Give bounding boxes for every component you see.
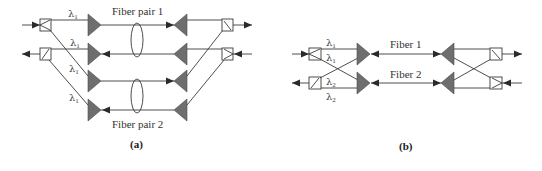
wavelength-label: λ1: [70, 37, 80, 50]
arrow-right-icon: [514, 51, 522, 58]
wavelength-label: λ2: [326, 76, 336, 89]
wavelength-label: λ1: [68, 8, 78, 21]
figure-b: Fiber 1 Fiber 2 λ1 λ1 λ2 λ2 (b): [292, 37, 522, 153]
amplifier-icon: [174, 70, 187, 92]
fiber-1-label: Fiber 1: [390, 38, 421, 50]
fiber-pair-ellipse: [131, 23, 143, 57]
amplifier-icon: [357, 72, 370, 94]
amplifier-icon: [88, 99, 101, 121]
amplifier-icon: [441, 43, 454, 65]
amplifier-icon: [357, 43, 370, 65]
arrow-right-icon: [301, 51, 309, 58]
caption-a: (a): [130, 138, 143, 151]
arrow-right-icon: [244, 22, 252, 29]
arrow-right-icon: [32, 22, 40, 29]
fiber-pair-2-label: Fiber pair 2: [112, 118, 163, 130]
amplifier-icon: [174, 14, 187, 36]
fiber-pair-ellipse: [131, 79, 143, 113]
arrow-left-icon: [292, 80, 300, 87]
arrow-left-icon: [503, 80, 511, 87]
fiber-2-label: Fiber 2: [390, 68, 421, 80]
amplifier-icon: [88, 14, 101, 36]
amplifier-icon: [174, 43, 187, 65]
splitter-box: [490, 77, 502, 89]
amplifier-icon: [441, 72, 454, 94]
arrow-left-icon: [22, 51, 30, 58]
caption-b: (b): [399, 140, 413, 153]
wavelength-label: λ1: [326, 37, 336, 50]
wavelength-label: λ1: [69, 92, 79, 105]
wavelength-label: λ2: [326, 91, 336, 104]
figure-a: Fiber pair 1 Fiber pair 2 λ1 λ1 λ1 λ1 (a…: [22, 5, 252, 151]
arrow-left-icon: [234, 51, 242, 58]
amplifier-icon: [88, 43, 101, 65]
fiber-pair-1-label: Fiber pair 1: [112, 5, 163, 17]
wavelength-label: λ1: [69, 63, 79, 76]
figure-canvas: Fiber pair 1 Fiber pair 2 λ1 λ1 λ1 λ1 (a…: [0, 0, 542, 171]
amplifier-icon: [88, 70, 101, 92]
splitter-box: [222, 48, 233, 60]
amplifier-icon: [174, 99, 187, 121]
